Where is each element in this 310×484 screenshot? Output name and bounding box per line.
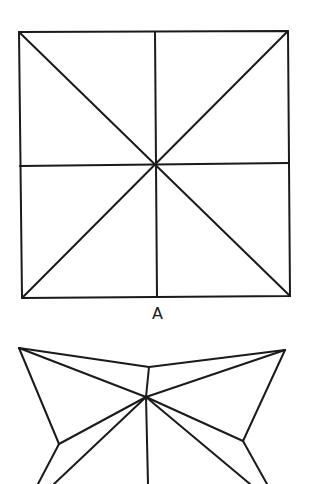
left-top-edge	[19, 348, 149, 367]
left-tip-to-center	[19, 348, 146, 397]
center-to-bottom-left	[54, 397, 146, 484]
right-tip-to-center	[146, 350, 285, 397]
center-ridge	[146, 367, 149, 397]
figure-a-label: A	[152, 306, 163, 322]
figure-a-square	[19, 31, 290, 298]
figure-b-folded-form	[19, 348, 285, 484]
right-outer-edge	[243, 350, 285, 441]
right-top-edge	[149, 350, 285, 367]
left-outer-edge	[19, 348, 59, 444]
center-to-bottom-right	[146, 397, 250, 484]
center-vertical-down	[146, 397, 148, 484]
origami-diagram	[0, 0, 310, 484]
left-elbow-down	[38, 444, 59, 484]
right-elbow-down	[243, 441, 267, 484]
center-to-right-elbow	[146, 397, 243, 441]
